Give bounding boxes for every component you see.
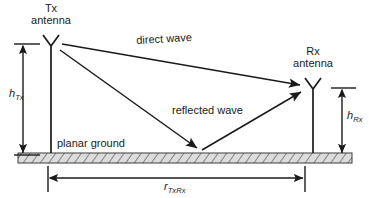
planar-ground-band xyxy=(18,153,352,163)
planar-ground-label: planar ground xyxy=(57,138,125,150)
rx-antenna-label: Rx antenna xyxy=(288,46,338,70)
r-txrx-label: rTxRx xyxy=(164,181,186,195)
h-rx-subscript: Rx xyxy=(353,115,362,124)
tx-antenna-right-arm xyxy=(51,35,59,46)
r-txrx-subscript: TxRx xyxy=(168,186,186,195)
rx-antenna-label-line2: antenna xyxy=(288,58,338,70)
reflected-wave-down-arrow xyxy=(60,50,197,148)
h-tx-label: hTx xyxy=(9,88,24,102)
tx-antenna-label: Tx antenna xyxy=(26,3,76,27)
tx-antenna-label-line2: antenna xyxy=(26,15,76,27)
reflected-wave-up-arrow xyxy=(202,92,301,150)
direct-wave-ray xyxy=(62,44,300,85)
direct-wave-arrow xyxy=(62,44,300,85)
h-tx-subscript: Tx xyxy=(15,93,24,102)
rx-antenna-right-arm xyxy=(313,78,321,89)
tx-mast-group xyxy=(43,35,59,153)
diagram-canvas xyxy=(0,0,369,198)
rx-mast-group xyxy=(305,78,321,153)
reflected-wave-reflected-ray xyxy=(202,92,301,150)
reflected-wave-incident-ray xyxy=(60,50,197,148)
reflected-wave-label: reflected wave xyxy=(172,105,243,117)
tx-antenna-left-arm xyxy=(43,35,51,46)
ground-hatched-rect xyxy=(18,153,352,163)
rx-antenna-left-arm xyxy=(305,78,313,89)
two-ray-propagation-diagram: Tx antenna Rx antenna direct wave reflec… xyxy=(0,0,369,198)
h-rx-label: hRx xyxy=(347,110,363,124)
